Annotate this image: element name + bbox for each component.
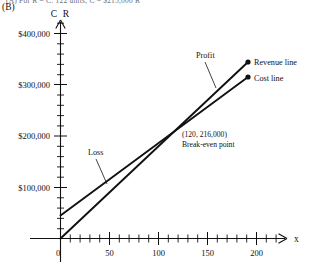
profit-label: Profit: [196, 51, 215, 60]
x-axis-tick-labels: 0 50 100 150 200: [56, 248, 263, 258]
y-axis-tick-labels: $400,000 $300,000 $200,000 $100,000: [18, 29, 50, 193]
cost-line-label: Cost line: [254, 74, 284, 83]
y-axis-label-c: C: [51, 9, 57, 19]
clipped-header-text: (A) For R = C: 122 units; C = $215,000 R: [6, 0, 140, 5]
x-tick-label-100: 100: [152, 248, 165, 258]
revenue-line-endpoint-dot: [245, 59, 250, 64]
revenue-line-label: Revenue line: [254, 58, 297, 67]
x-axis-label: x: [294, 234, 299, 244]
y-axis-minor-ticks: [57, 23, 64, 229]
y-tick-label-200000: $200,000: [18, 131, 50, 141]
cost-line-endpoint-dot: [245, 74, 250, 79]
panel-label: (B): [2, 2, 15, 13]
break-even-coordinates: (120, 216,000): [182, 130, 227, 139]
y-axis-label-r: R: [63, 9, 70, 19]
break-even-point-label: Break-even point: [182, 140, 235, 149]
y-tick-label-400000: $400,000: [18, 29, 50, 39]
y-axis: [56, 20, 65, 262]
loss-annotation: Loss: [88, 148, 107, 184]
figure-panel-b: (A) For R = C: 122 units; C = $215,000 R…: [0, 0, 311, 270]
break-even-chart: C R x $400,000 $300,000 $200,000 $100,00…: [0, 0, 311, 270]
loss-label: Loss: [88, 148, 103, 157]
x-tick-label-150: 150: [201, 248, 214, 258]
break-even-annotation: (120, 216,000) Break-even point: [182, 130, 235, 149]
x-tick-label-0: 0: [56, 248, 60, 258]
y-tick-label-100000: $100,000: [18, 183, 50, 193]
x-tick-label-200: 200: [250, 248, 263, 258]
profit-annotation: Profit: [196, 51, 216, 88]
y-tick-label-300000: $300,000: [18, 80, 50, 90]
x-tick-label-50: 50: [105, 248, 114, 258]
